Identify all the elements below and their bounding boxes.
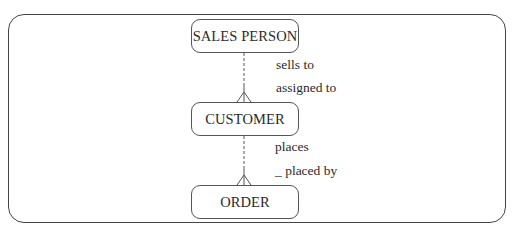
entity-customer: CUSTOMER [191, 102, 299, 136]
relationship-label-sells-to: sells to [276, 57, 314, 73]
connector-salesperson-customer [237, 53, 251, 102]
entity-label: ORDER [220, 194, 270, 211]
entity-label: CUSTOMER [205, 111, 285, 128]
connector-customer-order [237, 136, 251, 185]
relationship-label-assigned-to: assigned to [276, 80, 336, 96]
entity-label: SALES PERSON [193, 28, 298, 45]
relationship-label-placed-by: _ placed by [275, 163, 337, 179]
entity-order: ORDER [191, 185, 299, 219]
relationship-label-places: places [275, 139, 309, 155]
entity-sales-person: SALES PERSON [191, 19, 299, 53]
